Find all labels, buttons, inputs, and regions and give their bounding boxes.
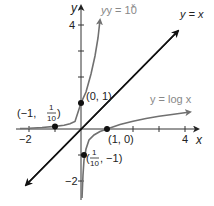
point-label-neg1-tenth-den: 10	[47, 114, 56, 123]
series-label-y-equals-log-x: y = log x	[150, 93, 192, 105]
y-tick-label-neg2: −2	[65, 175, 78, 187]
series-label-y-equals-x: y = x	[179, 8, 204, 20]
x-tick-label-neg2: −2	[19, 133, 32, 145]
x-axis-label: x	[195, 133, 203, 147]
point-neg1-tenth: (−1, 1 10 )	[17, 103, 61, 129]
series-y-equals-10-to-x: yy = 10 x	[20, 1, 137, 129]
point-label-tenth-neg1-num: 1	[92, 148, 97, 157]
point-label-0-1: (0, 1)	[86, 90, 112, 102]
y-tick-label-4: 4	[69, 19, 75, 31]
x-tick-label-4: 4	[182, 133, 188, 145]
point-label-1-0: (1, 0)	[108, 133, 134, 145]
point-label-tenth-neg1-den: 10	[90, 159, 99, 168]
y-axis-label: y	[70, 1, 78, 15]
chart: −2 4 x 4 −2 y y = x yy = 10 x y = log	[0, 0, 214, 206]
point-tenth-neg1: ( 1 10 , −1)	[81, 148, 122, 168]
point-label-neg1-tenth-num: 1	[49, 103, 54, 112]
point-label-tenth-neg1-right: , −1)	[100, 152, 122, 164]
series-y-equals-log-x: y = log x	[82, 93, 192, 198]
point-label-neg1-tenth-right: )	[57, 107, 61, 119]
point-label-neg1-tenth-left: (−1,	[17, 107, 36, 119]
